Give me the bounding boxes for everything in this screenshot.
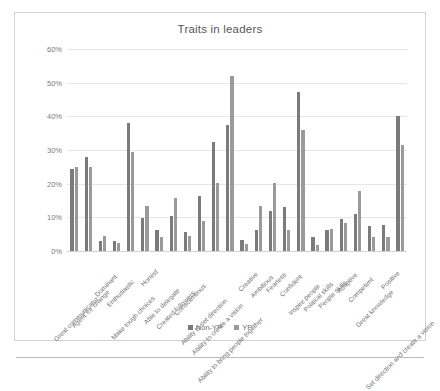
y-axis-tick-label: 60% bbox=[47, 45, 62, 54]
bar-group[interactable] bbox=[81, 49, 95, 251]
bar-yp[interactable] bbox=[160, 237, 163, 251]
bar-nonyp[interactable] bbox=[325, 230, 328, 251]
square-swatch-icon bbox=[188, 325, 193, 330]
page-divider-rule bbox=[16, 357, 424, 358]
bar-nonyp[interactable] bbox=[170, 216, 173, 251]
bar-yp[interactable] bbox=[273, 183, 276, 251]
bar-yp[interactable] bbox=[188, 236, 191, 251]
bar-group[interactable] bbox=[67, 49, 81, 251]
square-swatch-icon bbox=[234, 325, 239, 330]
bar-group[interactable] bbox=[308, 49, 322, 251]
bar-group[interactable] bbox=[95, 49, 109, 251]
bar-nonyp[interactable] bbox=[212, 142, 215, 251]
bar-yp[interactable] bbox=[145, 206, 148, 251]
bar-nonyp[interactable] bbox=[396, 116, 399, 251]
bar-group[interactable] bbox=[124, 49, 138, 251]
y-axis-tick-label: 0% bbox=[51, 247, 62, 256]
bar-nonyp[interactable] bbox=[340, 219, 343, 251]
bar-nonyp[interactable] bbox=[99, 241, 102, 251]
bar-group[interactable] bbox=[350, 49, 364, 251]
bar-group[interactable] bbox=[393, 49, 407, 251]
bar-yp[interactable] bbox=[75, 167, 78, 251]
bar-group[interactable] bbox=[223, 49, 237, 251]
bar-group[interactable] bbox=[251, 49, 265, 251]
bar-group[interactable] bbox=[152, 49, 166, 251]
plot-area: 0%10%20%30%40%50%60% bbox=[67, 49, 407, 251]
bar-yp[interactable] bbox=[117, 243, 120, 251]
bar-yp[interactable] bbox=[259, 206, 262, 251]
bar-group[interactable] bbox=[237, 49, 251, 251]
bar-nonyp[interactable] bbox=[240, 240, 243, 251]
bar-nonyp[interactable] bbox=[198, 196, 201, 251]
chart-title: Traits in leaders bbox=[15, 23, 425, 35]
bar-group[interactable] bbox=[110, 49, 124, 251]
gridline bbox=[67, 251, 407, 252]
bar-nonyp[interactable] bbox=[283, 207, 286, 251]
bar-nonyp[interactable] bbox=[255, 230, 258, 251]
bar-yp[interactable] bbox=[103, 236, 106, 251]
bar-group[interactable] bbox=[294, 49, 308, 251]
bar-yp[interactable] bbox=[316, 245, 319, 251]
bar-yp[interactable] bbox=[230, 76, 233, 251]
x-axis-tick-label: Honest bbox=[139, 268, 159, 288]
bar-nonyp[interactable] bbox=[354, 214, 357, 251]
legend-label: Non-YP bbox=[196, 323, 222, 332]
bar-nonyp[interactable] bbox=[226, 125, 229, 251]
bar-yp[interactable] bbox=[131, 152, 134, 251]
bar-group[interactable] bbox=[138, 49, 152, 251]
bar-yp[interactable] bbox=[386, 237, 389, 251]
bar-nonyp[interactable] bbox=[269, 211, 272, 251]
legend-item[interactable]: YP bbox=[234, 323, 252, 332]
bar-nonyp[interactable] bbox=[311, 237, 314, 251]
bar-yp[interactable] bbox=[216, 183, 219, 251]
bar-group[interactable] bbox=[322, 49, 336, 251]
legend-item[interactable]: Non-YP bbox=[188, 323, 222, 332]
bars-layer bbox=[67, 49, 407, 251]
x-axis-tick-label: Conscientious bbox=[173, 282, 208, 317]
legend-label: YP bbox=[242, 323, 252, 332]
bar-yp[interactable] bbox=[330, 229, 333, 251]
bar-nonyp[interactable] bbox=[113, 241, 116, 251]
bar-yp[interactable] bbox=[202, 221, 205, 251]
y-axis-tick-label: 30% bbox=[47, 146, 62, 155]
y-axis-tick-label: 50% bbox=[47, 78, 62, 87]
bar-nonyp[interactable] bbox=[184, 232, 187, 251]
y-axis-tick-label: 40% bbox=[47, 112, 62, 121]
bar-group[interactable] bbox=[265, 49, 279, 251]
y-axis-tick-label: 20% bbox=[47, 179, 62, 188]
bar-group[interactable] bbox=[209, 49, 223, 251]
bar-nonyp[interactable] bbox=[368, 226, 371, 251]
bar-yp[interactable] bbox=[301, 130, 304, 251]
bar-group[interactable] bbox=[336, 49, 350, 251]
bar-yp[interactable] bbox=[287, 230, 290, 251]
bar-nonyp[interactable] bbox=[297, 92, 300, 251]
bar-group[interactable] bbox=[379, 49, 393, 251]
bar-nonyp[interactable] bbox=[141, 218, 144, 251]
bar-nonyp[interactable] bbox=[85, 157, 88, 251]
bar-nonyp[interactable] bbox=[127, 123, 130, 251]
chart-frame: Traits in leaders 0%10%20%30%40%50%60% G… bbox=[14, 12, 426, 341]
bar-nonyp[interactable] bbox=[70, 169, 73, 251]
bar-group[interactable] bbox=[195, 49, 209, 251]
bar-nonyp[interactable] bbox=[382, 225, 385, 251]
bar-group[interactable] bbox=[180, 49, 194, 251]
bar-yp[interactable] bbox=[174, 198, 177, 251]
bar-yp[interactable] bbox=[245, 244, 248, 251]
y-axis-tick-label: 10% bbox=[47, 213, 62, 222]
bar-yp[interactable] bbox=[89, 167, 92, 251]
bar-group[interactable] bbox=[280, 49, 294, 251]
bar-yp[interactable] bbox=[344, 223, 347, 251]
bar-yp[interactable] bbox=[358, 191, 361, 251]
chart-legend: Non-YPYP bbox=[15, 323, 425, 332]
bar-nonyp[interactable] bbox=[155, 230, 158, 251]
bar-group[interactable] bbox=[365, 49, 379, 251]
bar-yp[interactable] bbox=[372, 237, 375, 251]
bar-yp[interactable] bbox=[401, 145, 404, 251]
bar-group[interactable] bbox=[166, 49, 180, 251]
